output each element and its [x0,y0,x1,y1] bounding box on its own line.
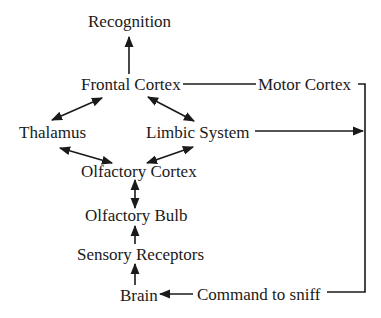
node-brain: Brain [120,287,158,304]
arrow-frontal-limbic [148,97,194,121]
node-frontal-cortex: Frontal Cortex [81,76,181,93]
node-thalamus: Thalamus [19,124,86,141]
arrow-frontal-thalamus [52,98,102,120]
node-olfactory-bulb: Olfactory Bulb [85,207,187,224]
connector-arrows [0,0,381,318]
olfaction-flow-diagram: Recognition Frontal Cortex Motor Cortex … [0,0,381,318]
connector-motor-to-command [327,84,365,292]
node-command-to-sniff: Command to sniff [197,286,320,303]
node-recognition: Recognition [88,13,171,30]
node-motor-cortex: Motor Cortex [258,76,351,93]
node-sensory-receptors: Sensory Receptors [77,246,204,263]
arrow-limbic-olfactory-cortex [147,147,193,163]
arrow-thalamus-olfactory-cortex [60,148,112,163]
node-limbic-system: Limbic System [146,124,249,141]
node-olfactory-cortex: Olfactory Cortex [81,163,197,180]
